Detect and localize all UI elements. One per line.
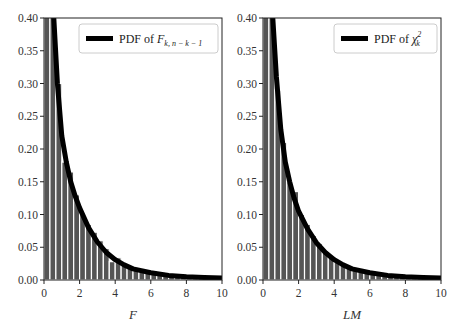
legend-label: PDF of χ2k (374, 30, 421, 48)
x-axis-label: F (128, 307, 138, 322)
histogram-bar (263, 0, 269, 280)
y-tick-label: 0.35 (237, 45, 257, 57)
legend: PDF of Fk, n − k − 1 (79, 24, 218, 53)
x-axis-label: LM (342, 307, 362, 322)
x-tick-label: 10 (435, 287, 447, 299)
right-panel: 0.000.050.100.150.200.250.300.350.400246… (237, 0, 447, 322)
x-tick-label: 4 (331, 287, 337, 299)
y-tick-label: 0.35 (18, 45, 38, 57)
y-tick-label: 0.05 (18, 241, 38, 253)
y-tick-label: 0.00 (237, 274, 257, 286)
y-tick-label: 0.05 (237, 241, 257, 253)
left-panel: 0.000.050.100.150.200.250.300.350.400246… (18, 0, 228, 322)
y-tick-label: 0.10 (18, 209, 38, 221)
y-tick-label: 0.20 (18, 143, 38, 155)
chart-figure: 0.000.050.100.150.200.250.300.350.400246… (0, 0, 457, 335)
x-tick-label: 0 (260, 287, 266, 299)
x-tick-label: 8 (184, 287, 190, 299)
y-tick-label: 0.20 (237, 143, 257, 155)
histogram-bar (44, 0, 50, 280)
x-tick-label: 6 (148, 287, 154, 299)
x-tick-label: 10 (216, 287, 228, 299)
x-tick-label: 0 (41, 287, 47, 299)
x-tick-label: 8 (403, 287, 409, 299)
y-tick-label: 0.15 (237, 176, 257, 188)
x-tick-label: 2 (296, 287, 302, 299)
y-tick-label: 0.10 (237, 209, 257, 221)
x-tick-label: 2 (77, 287, 83, 299)
histogram-bar (62, 162, 68, 280)
y-tick-label: 0.25 (18, 110, 38, 122)
y-tick-label: 0.00 (18, 274, 38, 286)
legend: PDF of χ2k (334, 24, 437, 53)
y-tick-label: 0.40 (237, 12, 257, 24)
y-tick-label: 0.30 (237, 78, 257, 90)
y-tick-label: 0.40 (18, 12, 38, 24)
x-tick-label: 6 (367, 287, 373, 299)
y-tick-label: 0.30 (18, 78, 38, 90)
histogram-bar (109, 262, 115, 280)
x-tick-label: 4 (112, 287, 118, 299)
y-tick-label: 0.15 (18, 176, 38, 188)
y-tick-label: 0.25 (237, 110, 257, 122)
